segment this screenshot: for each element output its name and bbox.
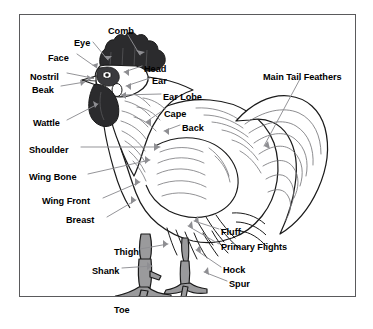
label-ear: Ear	[152, 76, 167, 86]
label-cape: Cape	[164, 109, 186, 119]
label-shoulder: Shoulder	[29, 145, 68, 155]
label-head: Head	[144, 64, 166, 74]
diagram-frame	[19, 14, 356, 297]
label-face: Face	[48, 53, 69, 63]
label-beak: Beak	[32, 85, 54, 95]
label-wattle: Wattle	[33, 118, 60, 128]
label-nostril: Nostril	[30, 72, 59, 82]
label-spur: Spur	[229, 279, 250, 289]
label-wing-front: Wing Front	[42, 196, 90, 206]
label-toe: Toe	[114, 305, 130, 315]
label-hock: Hock	[223, 265, 245, 275]
label-shank: Shank	[92, 266, 119, 276]
label-breast: Breast	[66, 215, 94, 225]
label-comb: Comb	[108, 26, 134, 36]
label-primary-flights: Primary Flights	[221, 242, 287, 252]
diagram-canvas: CombEyeFaceNostrilBeakWattleShoulderWing…	[0, 0, 373, 329]
label-eye: Eye	[74, 38, 90, 48]
label-ear-lobe: Ear Lobe	[163, 92, 202, 102]
label-main-tail-feathers: Main Tail Feathers	[263, 72, 342, 82]
label-thigh: Thigh	[114, 247, 139, 257]
label-back: Back	[182, 123, 204, 133]
label-wing-bone: Wing Bone	[29, 172, 76, 182]
label-fluff: Fluff	[221, 227, 241, 237]
